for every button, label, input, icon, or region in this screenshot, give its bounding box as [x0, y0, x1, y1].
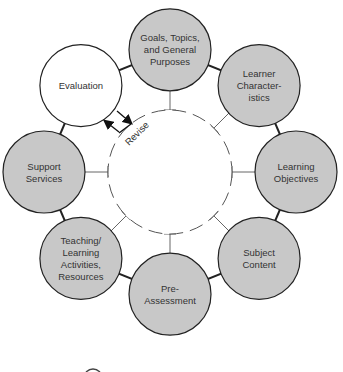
- node-learner-label: istics: [249, 92, 270, 103]
- node-learner-label: Character-: [237, 80, 282, 91]
- node-teaching-label: Resources: [58, 271, 104, 282]
- node-goals-label: Purposes: [150, 56, 190, 67]
- spoke-connector: [214, 216, 230, 232]
- node-goals-label: Goals, Topics,: [140, 32, 200, 43]
- node-content-label: Content: [242, 259, 276, 270]
- node-teaching-label: Learning: [62, 247, 99, 258]
- revise-arrow-in: [117, 111, 131, 123]
- spoke-connector: [110, 216, 126, 232]
- node-teaching-label: Activities,: [61, 259, 101, 270]
- node-teaching-label: Teaching/: [61, 235, 102, 246]
- node-preassessment-label: Assessment: [144, 295, 196, 306]
- node-objectives-label: Objectives: [274, 173, 319, 184]
- node-goals-label: and General: [144, 44, 196, 55]
- spoke-connector: [214, 112, 230, 128]
- revise-arrow-out: [105, 121, 119, 132]
- node-evaluation-label: Evaluation: [59, 80, 103, 91]
- node-learner-label: Learner: [243, 68, 276, 79]
- node-preassessment-label: Pre-: [161, 283, 179, 294]
- node-objectives-label: Learning: [278, 161, 315, 172]
- node-support-label: Support: [27, 161, 61, 172]
- node-support-label: Services: [26, 173, 63, 184]
- instructional-design-cycle-diagram: Goals, Topics,and GeneralPurposesLearner…: [0, 0, 343, 372]
- center-dashed-circle: [108, 110, 232, 234]
- node-content-label: Subject: [243, 247, 275, 258]
